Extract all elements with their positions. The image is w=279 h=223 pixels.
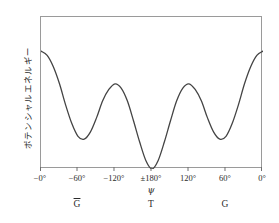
conformer-label: G <box>74 197 81 211</box>
x-tick-label: −60° <box>69 172 86 185</box>
x-tick-label: 0° <box>258 172 266 185</box>
plot-area <box>40 16 262 168</box>
x-tick-label: −0° <box>34 172 46 185</box>
y-axis-label: ポテンシャルエネルギー <box>24 47 33 149</box>
potential-energy-curve <box>41 51 263 169</box>
conformer-label: T <box>148 197 154 211</box>
conformer-labels: GTG <box>40 197 262 213</box>
y-axis-label-container: ポテンシャルエネルギー <box>17 28 39 168</box>
x-tick-label: 120° <box>180 172 196 185</box>
x-tick-label: −120° <box>104 172 125 185</box>
x-tick-label: 60° <box>219 172 231 185</box>
potential-energy-curve-svg <box>41 17 263 169</box>
x-tick-label: ±180° <box>141 172 162 185</box>
conformer-label: G <box>222 197 229 211</box>
x-axis-symbol: ψ <box>147 185 154 195</box>
potential-energy-figure: ポテンシャルエネルギー −0°−60°−120°±180°120°60°0° ψ… <box>0 0 279 223</box>
x-axis-tick-labels: −0°−60°−120°±180°120°60°0° <box>40 172 262 185</box>
